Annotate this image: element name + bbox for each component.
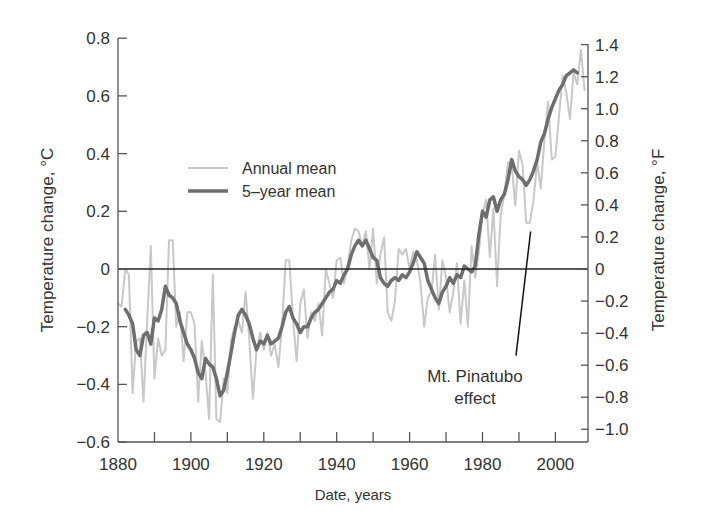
left-tick-label: −0.4 xyxy=(76,375,110,394)
left-tick-label: 0.2 xyxy=(86,202,110,221)
legend-label-5yr: 5–year mean xyxy=(242,183,335,200)
right-tick-label: −0.8 xyxy=(595,388,629,407)
bottom-tick-label: 1940 xyxy=(318,455,356,474)
left-tick-label: 0.8 xyxy=(86,29,110,48)
bottom-tick-label: 1900 xyxy=(172,455,210,474)
right-tick-label: −1.0 xyxy=(595,420,629,439)
five-year-mean-line xyxy=(125,70,577,396)
right-tick-label: 0.4 xyxy=(595,196,619,215)
left-tick-label: −0.2 xyxy=(76,318,110,337)
annotation-text-line1: Mt. Pinatubo xyxy=(427,367,522,386)
right-tick-label: −0.6 xyxy=(595,356,629,375)
left-tick-label: 0.6 xyxy=(86,87,110,106)
legend-label-annual: Annual mean xyxy=(242,160,336,177)
right-tick-label: 0 xyxy=(595,260,604,279)
left-tick-label: 0 xyxy=(101,260,110,279)
right-tick-label: 0.8 xyxy=(595,132,619,151)
annotation-text-line2: effect xyxy=(454,389,496,408)
legend: Annual mean 5–year mean xyxy=(188,160,336,200)
right-tick-label: 1.0 xyxy=(595,100,619,119)
bottom-tick-label: 2000 xyxy=(536,455,574,474)
right-tick-label: 1.2 xyxy=(595,68,619,87)
right-tick-label: 0.6 xyxy=(595,164,619,183)
right-tick-label: −0.2 xyxy=(595,292,629,311)
right-tick-label: −0.4 xyxy=(595,324,629,343)
bottom-tick-label: 1960 xyxy=(391,455,429,474)
left-tick-label: 0.4 xyxy=(86,145,110,164)
bottom-tick-label: 1920 xyxy=(245,455,283,474)
y-axis-title-right: Temperature change, °F xyxy=(649,149,668,332)
left-tick-label: −0.6 xyxy=(76,433,110,452)
annotation-pointer-line xyxy=(516,232,531,356)
bottom-tick-label: 1980 xyxy=(464,455,502,474)
y-axis-title-left: Temperature change, °C xyxy=(38,148,57,332)
x-axis-title: Date, years xyxy=(315,486,392,503)
right-tick-label: 1.4 xyxy=(595,36,619,55)
temperature-chart: 0.80.60.40.20−0.2−0.4−0.6 1.41.21.00.80.… xyxy=(0,0,706,530)
bottom-axis-ticks: 1880190019201940196019802000 xyxy=(99,432,574,474)
bottom-tick-label: 1880 xyxy=(99,455,137,474)
right-tick-label: 0.2 xyxy=(595,228,619,247)
left-axis-ticks: 0.80.60.40.20−0.2−0.4−0.6 xyxy=(76,29,127,452)
